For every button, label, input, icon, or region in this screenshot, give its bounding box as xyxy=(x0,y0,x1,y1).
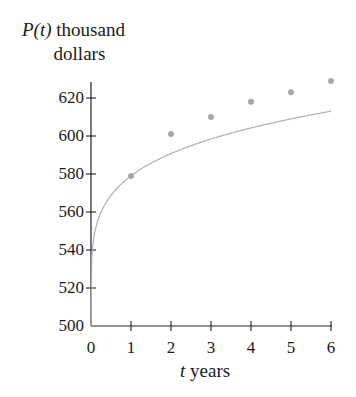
y-tick-label: 580 xyxy=(34,165,84,183)
y-tick-label: 620 xyxy=(34,89,84,107)
y-tick-label: 520 xyxy=(34,279,84,297)
x-tick-label: 2 xyxy=(161,339,181,357)
x-tick-label: 5 xyxy=(281,339,301,357)
data-point xyxy=(328,78,334,84)
x-tick-label: 4 xyxy=(241,339,261,357)
y-tick-label: 500 xyxy=(34,317,84,335)
y-tick-label: 600 xyxy=(34,127,84,145)
x-tick-label: 6 xyxy=(321,339,341,357)
data-point xyxy=(168,131,174,137)
x-tick-label: 3 xyxy=(201,339,221,357)
data-point xyxy=(248,99,254,105)
chart-plot-area xyxy=(0,0,356,397)
x-axis-variable: t xyxy=(180,360,185,381)
data-point xyxy=(208,114,214,120)
x-axis-unit: years xyxy=(190,360,230,381)
y-tick-label: 560 xyxy=(34,203,84,221)
x-tick-label: 0 xyxy=(81,339,101,357)
fitted-curve xyxy=(91,111,331,326)
x-tick-label: 1 xyxy=(121,339,141,357)
data-point xyxy=(128,173,134,179)
data-point xyxy=(288,89,294,95)
y-tick-label: 540 xyxy=(34,241,84,259)
x-axis-label: t years xyxy=(180,360,230,382)
